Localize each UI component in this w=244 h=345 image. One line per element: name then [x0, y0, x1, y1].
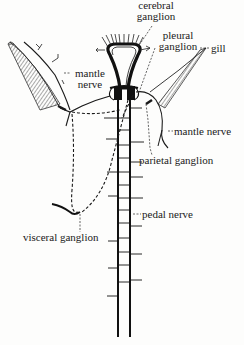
label-visceral-ganglion: visceral ganglion [23, 232, 98, 243]
label-mantle-left-line2: nerve [70, 79, 110, 90]
label-parietal-ganglion: parietal ganglion [139, 155, 213, 166]
label-mantle-nerve-left: mantle nerve [70, 68, 110, 90]
label-pedal-nerve: pedal nerve [142, 209, 193, 220]
diagram-drawing [0, 0, 244, 345]
label-gill: gill [211, 43, 226, 54]
right-gill [150, 48, 206, 108]
visceral-ganglion [52, 204, 80, 214]
label-mantle-nerve-right: mantle nerve [174, 126, 231, 137]
label-pleural-line2: ganglion [150, 41, 206, 52]
visceral-connectives [72, 95, 133, 212]
label-cerebral-ganglion: cerebral ganglion [128, 0, 184, 22]
label-pleural-ganglion: pleural ganglion [150, 30, 206, 52]
pedal-nerve-cords [104, 96, 144, 337]
label-cerebral-line2: ganglion [128, 11, 184, 22]
left-gill [8, 42, 60, 110]
nervous-system-diagram: cerebral ganglion pleural ganglion gill … [0, 0, 244, 345]
